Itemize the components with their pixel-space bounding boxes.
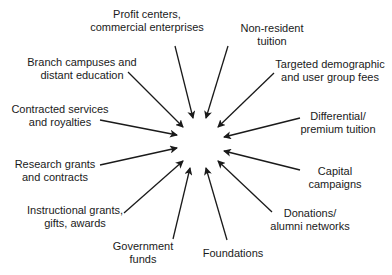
source-label-line: Capital	[308, 165, 361, 178]
arrow-capital-icon	[224, 151, 300, 170]
source-label-government: Governmentfunds	[113, 240, 174, 266]
source-label-nonresident: Non-residenttuition	[241, 22, 304, 48]
source-label-line: Donations/	[270, 207, 349, 220]
source-label-line: Branch campuses and	[27, 56, 136, 69]
arrow-donations-icon	[218, 161, 272, 212]
source-label-line: and user group fees	[275, 71, 384, 84]
source-label-line: Government	[113, 240, 174, 253]
source-label-line: Research grants	[15, 158, 96, 171]
source-label-differential: Differential/premium tuition	[300, 110, 375, 136]
source-label-branch: Branch campuses anddistant education	[27, 56, 136, 82]
arrow-contracted-icon	[100, 120, 177, 135]
source-label-line: distant education	[27, 69, 136, 82]
arrow-foundations-icon	[206, 168, 227, 240]
source-label-line: Foundations	[203, 247, 264, 260]
source-label-donations: Donations/alumni networks	[270, 207, 349, 233]
source-label-line: and contracts	[15, 171, 96, 184]
source-label-line: Targeted demographic	[275, 58, 384, 71]
source-label-profit: Profit centers,commercial enterprises	[90, 8, 204, 34]
source-label-line: Instructional grants,	[27, 204, 123, 217]
source-label-line: funds	[113, 253, 174, 266]
source-label-line: Contracted services	[11, 103, 108, 116]
source-label-line: gifts, awards	[27, 217, 123, 230]
arrow-differential-icon	[224, 118, 300, 137]
source-label-line: tuition	[241, 35, 304, 48]
source-label-line: alumni networks	[270, 220, 349, 233]
source-label-line: and royalties	[11, 116, 108, 129]
arrow-government-icon	[173, 168, 190, 239]
arrow-research-icon	[100, 148, 177, 165]
source-label-foundations: Foundations	[203, 247, 264, 260]
source-label-research: Research grantsand contracts	[15, 158, 96, 184]
source-label-line: premium tuition	[300, 123, 375, 136]
source-label-line: campaigns	[308, 178, 361, 191]
arrow-targeted-icon	[218, 73, 274, 127]
source-label-capital: Capitalcampaigns	[308, 165, 361, 191]
source-label-line: commercial enterprises	[90, 21, 204, 34]
source-label-instructional: Instructional grants,gifts, awards	[27, 204, 123, 230]
source-label-line: Non-resident	[241, 22, 304, 35]
source-label-contracted: Contracted servicesand royalties	[11, 103, 108, 129]
arrow-instructional-icon	[124, 161, 183, 213]
funding-sources-diagram: Profit centers,commercial enterprisesNon…	[0, 0, 392, 275]
arrow-nonresident-icon	[206, 46, 228, 118]
arrow-profit-icon	[175, 46, 193, 118]
source-label-targeted: Targeted demographicand user group fees	[275, 58, 384, 84]
arrows-layer	[0, 0, 392, 275]
source-label-line: Profit centers,	[90, 8, 204, 21]
source-label-line: Differential/	[300, 110, 375, 123]
